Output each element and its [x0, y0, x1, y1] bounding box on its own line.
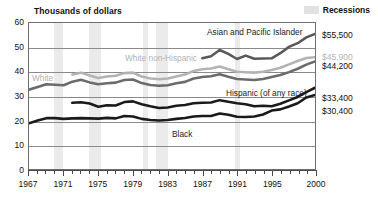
series-label-white-non-hispanic: White non-Hispanic [125, 53, 197, 63]
y-tick-label: 20 [0, 116, 24, 126]
x-tick [255, 170, 256, 174]
value-white: $44,200 [322, 61, 353, 71]
value-hispanic: $33,400 [322, 93, 353, 103]
x-tick [211, 170, 212, 174]
legend: Recessions [304, 5, 370, 15]
x-tick [89, 170, 90, 174]
x-tick [264, 170, 265, 174]
x-tick [203, 170, 204, 176]
x-tick [176, 170, 177, 174]
x-tick [281, 170, 282, 174]
x-tick [54, 170, 55, 174]
x-tick [272, 170, 273, 176]
x-tick-label: 1991 [228, 179, 247, 189]
x-tick [133, 170, 134, 176]
y-tick-label: 40 [0, 66, 24, 76]
y-axis-title: Thousands of dollars [34, 6, 122, 16]
y-tick-label: 50 [0, 42, 24, 52]
y-tick-label: 10 [0, 140, 24, 150]
x-tick [194, 170, 195, 174]
x-tick [98, 170, 99, 176]
series-line [202, 34, 315, 59]
series-label-hispanic: Hispanic (of any race) [226, 88, 307, 98]
series-label-asian-pacific-islander: Asian and Pacific Islander [207, 27, 302, 37]
x-tick [246, 170, 247, 174]
x-tick-label: 1971 [53, 179, 72, 189]
series-label-black: Black [172, 129, 192, 139]
value-black: $30,400 [322, 106, 353, 116]
x-tick [45, 170, 46, 174]
value-asian-pacific-islander: $55,500 [322, 30, 353, 40]
x-tick [80, 170, 81, 174]
x-tick-label: 1987 [193, 179, 212, 189]
x-tick [72, 170, 73, 174]
series-label-white: White [32, 73, 53, 83]
y-tick-label: 60 [0, 17, 24, 27]
x-tick [316, 170, 317, 176]
x-tick-label: 1983 [158, 179, 177, 189]
y-tick-label: 30 [0, 91, 24, 101]
x-tick-label: 1995 [263, 179, 282, 189]
recession-swatch-icon [304, 6, 319, 14]
x-tick [185, 170, 186, 174]
x-tick [168, 170, 169, 176]
x-tick [159, 170, 160, 174]
x-tick [237, 170, 238, 176]
x-tick [124, 170, 125, 174]
x-tick-label: 1975 [88, 179, 107, 189]
x-tick [63, 170, 64, 176]
x-tick [290, 170, 291, 174]
x-tick-label: 2000 [307, 179, 326, 189]
x-tick [220, 170, 221, 174]
x-tick [107, 170, 108, 174]
chart-root: Thousands of dollars Recessions 01020304… [0, 0, 378, 207]
x-tick [307, 170, 308, 174]
x-tick-label: 1979 [123, 179, 142, 189]
x-tick [141, 170, 142, 174]
series-line [29, 95, 315, 123]
x-tick [28, 170, 29, 176]
legend-label-recessions: Recessions [323, 5, 370, 15]
x-tick [150, 170, 151, 174]
x-tick [37, 170, 38, 174]
x-tick [229, 170, 230, 174]
x-tick [299, 170, 300, 174]
x-tick-label: 1967 [19, 179, 38, 189]
y-tick-label: 0 [0, 165, 24, 175]
x-tick [115, 170, 116, 174]
